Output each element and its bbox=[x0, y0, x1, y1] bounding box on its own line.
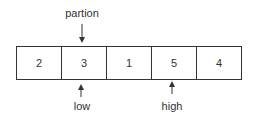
array-cell: 5 bbox=[152, 47, 197, 79]
array-cell: 4 bbox=[197, 47, 241, 79]
array-cell: 3 bbox=[62, 47, 107, 79]
array-cell: 2 bbox=[17, 47, 62, 79]
high-label: high bbox=[162, 100, 183, 112]
high-arrow-icon bbox=[168, 81, 176, 95]
array-cell: 1 bbox=[107, 47, 152, 79]
low-label: low bbox=[74, 100, 91, 112]
array: 2 3 1 5 4 bbox=[16, 46, 242, 80]
partition-label: partion bbox=[65, 7, 99, 19]
partition-arrow-icon bbox=[78, 24, 86, 44]
low-arrow-icon bbox=[77, 84, 85, 98]
